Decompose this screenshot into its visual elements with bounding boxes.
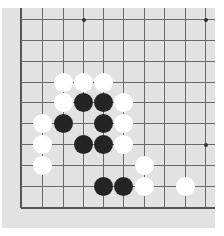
grid-vertical-line xyxy=(164,8,165,208)
white-stone[interactable] xyxy=(94,73,113,92)
white-stone[interactable] xyxy=(74,73,93,92)
go-board[interactable] xyxy=(2,8,215,228)
star-point xyxy=(82,18,86,22)
black-stone[interactable] xyxy=(94,93,113,112)
white-stone[interactable] xyxy=(54,93,73,112)
white-stone[interactable] xyxy=(176,177,195,196)
white-stone[interactable] xyxy=(54,73,73,92)
star-point xyxy=(204,18,208,22)
white-stone[interactable] xyxy=(33,114,52,133)
white-stone[interactable] xyxy=(114,135,133,154)
black-stone[interactable] xyxy=(94,135,113,154)
grid-horizontal-line xyxy=(21,82,215,83)
black-stone[interactable] xyxy=(54,114,73,133)
white-stone[interactable] xyxy=(114,93,133,112)
black-stone[interactable] xyxy=(114,177,133,196)
black-stone[interactable] xyxy=(74,93,93,112)
black-stone[interactable] xyxy=(74,135,93,154)
white-stone[interactable] xyxy=(33,156,52,175)
grid-vertical-line xyxy=(42,8,43,208)
grid-horizontal-line xyxy=(21,207,215,209)
black-stone[interactable] xyxy=(94,114,113,133)
white-stone[interactable] xyxy=(33,135,52,154)
grid-vertical-line xyxy=(205,8,206,208)
grid-horizontal-line xyxy=(21,61,215,62)
white-stone[interactable] xyxy=(135,177,154,196)
grid-horizontal-line xyxy=(21,19,215,20)
white-stone[interactable] xyxy=(114,114,133,133)
star-point xyxy=(204,143,208,147)
white-stone[interactable] xyxy=(135,156,154,175)
grid-vertical-line xyxy=(20,8,22,208)
grid-horizontal-line xyxy=(21,40,215,41)
black-stone[interactable] xyxy=(94,177,113,196)
